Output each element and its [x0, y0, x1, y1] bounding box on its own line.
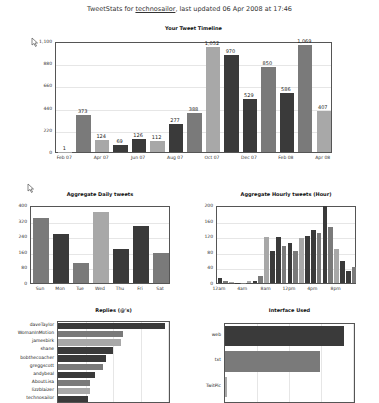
bar	[328, 227, 333, 283]
category-label: txt	[167, 357, 221, 362]
value-label: 529	[237, 92, 261, 98]
y-tick-label: 220	[28, 128, 52, 133]
bar	[58, 339, 121, 345]
bar	[298, 45, 312, 152]
x-tick-label: Oct 07	[199, 155, 225, 160]
bar	[280, 93, 294, 152]
value-label: 277	[163, 117, 187, 123]
interface-title: Interface Used	[224, 307, 355, 313]
x-tick-label: Apr 08	[310, 155, 336, 160]
username-link[interactable]: technosailor	[135, 5, 175, 13]
bar	[113, 145, 127, 152]
value-label: 1	[52, 145, 76, 151]
value-label: 407	[311, 104, 335, 110]
bar	[253, 281, 258, 283]
category-label: shane	[0, 346, 54, 351]
bar	[352, 267, 357, 283]
hourly-chart	[216, 206, 356, 284]
replies-chart	[57, 321, 170, 403]
y-tick-label: 0	[3, 281, 27, 286]
category-label: bobthecoacher	[0, 355, 54, 360]
bar	[150, 141, 164, 152]
gridline	[217, 223, 355, 224]
bar	[224, 55, 238, 152]
y-tick-label: 200	[189, 203, 213, 208]
y-tick-label: 120	[189, 234, 213, 239]
y-tick-label: 160	[189, 219, 213, 224]
bar	[132, 139, 146, 152]
bar	[225, 351, 320, 371]
bar	[58, 388, 90, 394]
bar	[58, 355, 106, 361]
value-label: 586	[274, 86, 298, 92]
category-label: lizzblaizer	[0, 387, 54, 392]
bar	[58, 396, 88, 402]
bar	[58, 364, 103, 370]
y-tick-label: 160	[3, 250, 27, 255]
interface-chart	[224, 323, 355, 403]
bar	[340, 261, 345, 283]
bar	[58, 372, 95, 378]
bar	[133, 226, 149, 283]
bar	[258, 276, 263, 283]
bar	[206, 47, 220, 152]
header-prefix: TweetStats for	[87, 5, 135, 13]
value-label: 1,052	[200, 40, 224, 46]
bar	[311, 230, 316, 284]
x-tick-label: Aug 07	[162, 155, 188, 160]
bar	[229, 282, 234, 283]
x-tick-label: 4pm	[299, 286, 325, 291]
y-tick-label: 80	[3, 265, 27, 270]
gridline	[217, 238, 355, 239]
bar	[305, 236, 310, 283]
value-label: 69	[108, 138, 132, 144]
category-label: TwitPic	[167, 383, 221, 388]
category-label: AboutLisa	[0, 379, 54, 384]
x-tick-label: Apr 07	[88, 155, 114, 160]
x-tick-label: 12pm	[276, 286, 302, 291]
category-label: WomanInMotion	[0, 330, 54, 335]
bar	[58, 347, 113, 353]
bar	[187, 113, 201, 152]
category-label: greggscott	[0, 363, 54, 368]
bar	[58, 323, 165, 329]
bar	[58, 331, 123, 337]
x-tick-label: Feb 07	[51, 155, 77, 160]
value-label: 373	[71, 108, 95, 114]
bar	[270, 251, 275, 283]
bar	[264, 237, 269, 283]
bar	[334, 249, 339, 283]
x-tick-label: 12am	[206, 286, 232, 291]
bar	[299, 238, 304, 283]
gridline	[141, 322, 142, 402]
category-label: andybeal	[0, 371, 54, 376]
replies-title: Replies (@'s)	[57, 307, 170, 313]
y-tick-label: 320	[3, 219, 27, 224]
y-tick-label: 240	[3, 234, 27, 239]
bar	[225, 326, 344, 346]
y-tick-label: 400	[3, 203, 27, 208]
y-tick-label: 880	[28, 61, 52, 66]
bar	[169, 124, 183, 152]
bar	[317, 233, 322, 283]
x-tick-label: Feb 08	[273, 155, 299, 160]
x-tick-label: Dec 07	[236, 155, 262, 160]
bar	[73, 263, 89, 283]
x-tick-label: 8pm	[323, 286, 349, 291]
bar	[282, 246, 287, 283]
gridline	[353, 324, 354, 402]
bar	[218, 278, 223, 283]
bar	[58, 380, 90, 386]
bar	[276, 237, 281, 283]
daily-chart	[30, 206, 170, 284]
page-header: TweetStats for technosailor, last update…	[0, 5, 379, 13]
bar	[53, 234, 69, 283]
x-tick-label: 4am	[229, 286, 255, 291]
y-tick-label: 80	[189, 250, 213, 255]
daily-title: Aggregate Daily tweets	[30, 191, 170, 197]
mouse-cursor-icon	[31, 37, 39, 47]
bar	[225, 377, 227, 397]
bar	[243, 99, 257, 152]
bar	[323, 206, 328, 283]
bar	[93, 212, 109, 283]
